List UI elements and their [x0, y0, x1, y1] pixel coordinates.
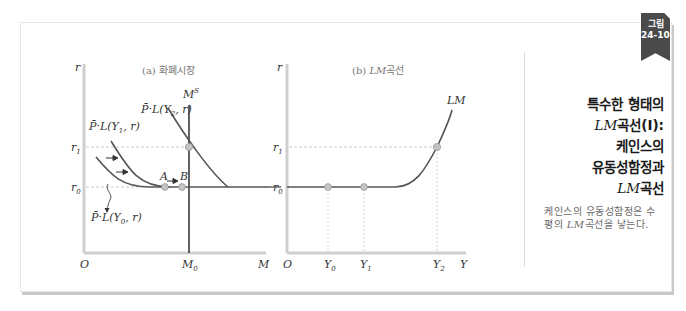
point-y2: [433, 143, 440, 150]
point-r1-money: [185, 143, 192, 150]
panel-b-y0-label: Y0: [324, 258, 336, 273]
figure-title: 특수한 형태의 LM곡선(I): 케인스의 유동성함정과 LM곡선: [530, 94, 664, 199]
point-y1: [361, 184, 368, 191]
title-line4: 유동성함정과: [530, 157, 664, 178]
panel-a-origin-label: O: [80, 258, 89, 271]
demand-y1-label: P̄·L(Y1, r): [88, 120, 140, 135]
panel-b-origin-label: O: [283, 258, 292, 271]
panel-a-r-label: r: [75, 61, 81, 74]
panel-a-m-label: M: [257, 258, 270, 271]
title-line5: LM곡선: [530, 178, 664, 199]
badge-line2: 24-10: [641, 30, 670, 41]
lm-curve-label: LM: [446, 94, 466, 107]
title-line1: 특수한 형태의: [530, 94, 664, 115]
demand-y0-label: P̄·L(Y0, r): [90, 211, 142, 226]
panel-b-title: (b) LM곡선: [352, 65, 404, 76]
panel-a-r1-label: r1: [71, 141, 81, 156]
panel-b-y2-label: Y2: [433, 258, 445, 273]
title-line2: LM곡선(I):: [530, 115, 664, 136]
point-b: [179, 184, 186, 191]
panel-b-y1-label: Y1: [360, 258, 372, 273]
lm-curve: [287, 110, 452, 187]
panel-a-r0-label: r0: [71, 181, 81, 196]
point-a: [162, 184, 169, 191]
panel-b-y-axis-label: Y: [460, 258, 469, 271]
money-supply-label: MS: [182, 87, 199, 101]
badge-line1: 그림: [641, 19, 670, 30]
point-a-label: A: [159, 170, 168, 183]
figure-description: 케인스의 유동성함정은 수평의 LM곡선을 낳는다.: [544, 205, 664, 231]
point-b-label: B: [179, 170, 188, 183]
label-pointer: [107, 184, 111, 210]
demand-y2-label: P̄·L(Y2, r): [140, 103, 192, 118]
point-y0: [325, 184, 332, 191]
panel-b-r0-label: r0: [273, 181, 283, 196]
panel-b-r1-label: r1: [273, 141, 283, 156]
panel-a-title: (a) 화폐시장: [142, 65, 195, 76]
panel-a-money-market: (a) 화폐시장 r r1 r0 O M0 M MS A B: [71, 61, 270, 273]
title-line3: 케인스의: [530, 136, 664, 157]
side-panel-divider: [524, 52, 525, 267]
panel-a-m0-label: M0: [181, 258, 198, 273]
panel-b-r-label: r: [277, 61, 283, 74]
panel-b-lm-curve: (b) LM곡선 r r1 r0 O Y0 Y1 Y2 Y LM: [268, 61, 469, 273]
